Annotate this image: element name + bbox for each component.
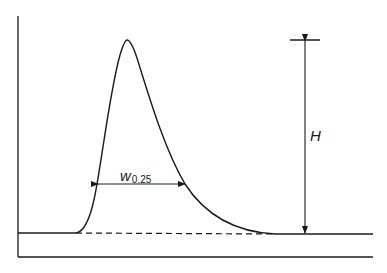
baseline-dashed xyxy=(76,233,275,234)
peak-diagram: w0.25 H xyxy=(0,0,387,273)
height-label: H xyxy=(310,127,321,144)
width-symbol: w xyxy=(120,167,132,184)
width-subscript: 0.25 xyxy=(132,174,152,185)
width-label: w0.25 xyxy=(120,167,152,185)
peak-curve xyxy=(76,40,275,234)
